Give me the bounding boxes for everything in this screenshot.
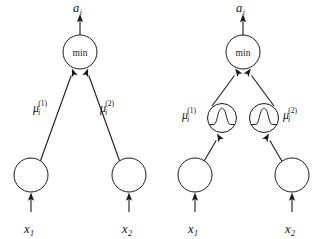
left-min-node-label: min	[73, 48, 88, 58]
right-edge-label-1: μi(1)	[181, 106, 197, 124]
left-input-node-1[interactable]	[14, 158, 48, 192]
right-lower-edge-2	[262, 132, 283, 163]
right-input-node-1[interactable]	[178, 158, 212, 192]
left-output-label: ai	[73, 1, 82, 17]
diagram-svg: ai min μi(1) μi(2)	[0, 0, 325, 239]
right-membership-node-1[interactable]	[208, 104, 237, 133]
left-input-node-2[interactable]	[112, 158, 146, 192]
right-input-label-2: x2	[284, 222, 295, 238]
left-input-label-2: x2	[121, 222, 132, 238]
left-output-arrow	[77, 14, 83, 35]
left-input-arrow-1	[28, 193, 34, 213]
left-edge-1	[40, 67, 78, 162]
right-input-arrow-1	[192, 193, 198, 213]
right-edge-2	[244, 67, 274, 106]
right-input-node-2[interactable]	[275, 158, 309, 192]
right-lower-edge-1	[203, 132, 224, 163]
right-output-arrow	[240, 14, 246, 35]
right-panel: ai min	[178, 1, 309, 238]
left-edge-label-1: μi(1)	[32, 99, 48, 117]
right-membership-node-2[interactable]	[250, 104, 279, 133]
right-input-arrow-2	[289, 193, 295, 213]
figure-canvas: ai min μi(1) μi(2)	[0, 0, 325, 239]
right-edge-1	[212, 67, 242, 106]
left-panel: ai min μi(1) μi(2)	[14, 1, 146, 238]
right-edge-label-2: μi(2)	[282, 106, 298, 124]
left-edge-label-2: μi(2)	[99, 99, 115, 117]
left-input-arrow-2	[126, 193, 132, 213]
right-output-label: ai	[236, 1, 245, 17]
right-min-node-label: min	[236, 48, 251, 58]
left-input-label-1: x1	[23, 222, 34, 238]
right-input-label-1: x1	[187, 222, 198, 238]
